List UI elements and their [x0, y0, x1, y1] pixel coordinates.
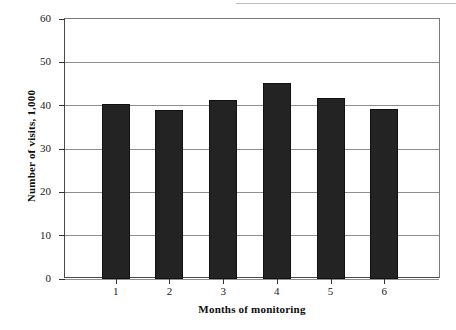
x-axis-title: Months of monitoring: [64, 303, 440, 315]
bar: [209, 100, 237, 279]
x-axis-tick: [331, 279, 332, 284]
bar: [263, 83, 291, 279]
bar: [102, 104, 130, 280]
x-axis-tick-label: 3: [208, 286, 238, 297]
bar: [155, 110, 183, 279]
y-axis-tick: [59, 149, 65, 150]
x-axis-tick: [277, 279, 278, 284]
y-axis-tick: [59, 235, 65, 236]
y-axis-tick: [59, 279, 65, 280]
x-axis-tick: [116, 279, 117, 284]
x-axis-tick: [223, 279, 224, 284]
y-axis-tick: [59, 19, 65, 20]
y-axis-tick: [59, 62, 65, 63]
x-axis-tick-label: 6: [369, 286, 399, 297]
scan-edge-line: [236, 3, 456, 4]
y-axis-tick-label: 60: [25, 13, 51, 24]
y-gridline: [65, 62, 439, 63]
bar: [370, 109, 398, 279]
x-axis-tick-label: 1: [101, 286, 131, 297]
y-axis-title: Number of visits, 1,000: [25, 46, 37, 246]
y-axis-tick: [59, 105, 65, 106]
x-axis-tick: [169, 279, 170, 284]
x-axis-tick-label: 4: [262, 286, 292, 297]
x-axis-tick: [384, 279, 385, 284]
bar-chart-figure: 0102030405060123456 Months of monitoring…: [0, 0, 456, 330]
x-axis-tick-label: 2: [154, 286, 184, 297]
bar: [317, 98, 345, 279]
y-axis-tick: [59, 192, 65, 193]
y-axis-tick-label: 0: [25, 273, 51, 284]
plot-area: 0102030405060123456: [64, 18, 440, 278]
x-axis-tick-label: 5: [316, 286, 346, 297]
